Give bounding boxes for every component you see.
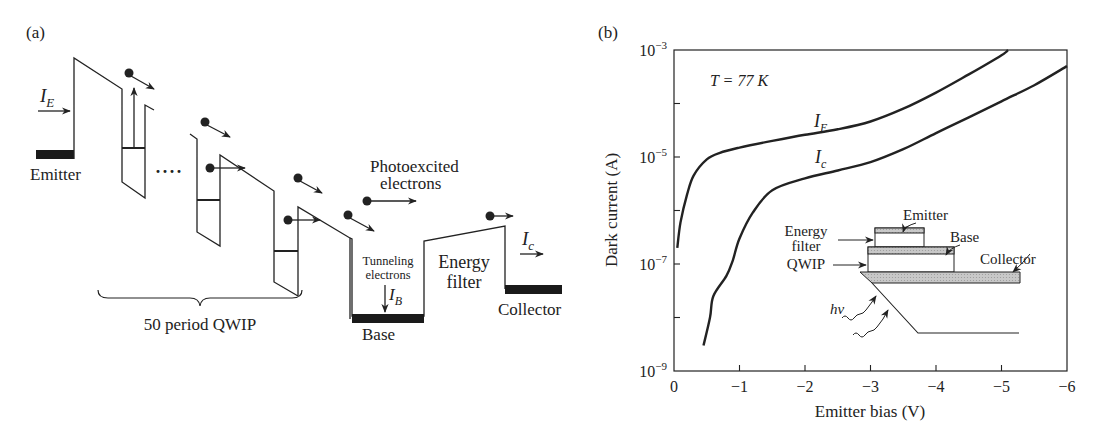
tunneling-label-line2: electrons (365, 268, 410, 282)
conduction-band-period-2 (190, 134, 298, 296)
panel-b-chart: (b) 10−3 10−5 10−7 10−9 0 −1 − (598, 23, 1076, 421)
electron-motion-arrow-icon (350, 218, 374, 231)
y-axis-label: Dark current (A) (602, 153, 621, 267)
emitter-label: Emitter (30, 165, 81, 184)
tunneling-label-line1: Tunneling (363, 254, 415, 268)
x-tick: −1 (731, 378, 748, 395)
x-tick: −4 (927, 378, 944, 395)
x-tick: −5 (993, 378, 1010, 395)
device-inset: Emitter Base Collector Energy filter QWI… (784, 207, 1035, 337)
electron-motion-arrow-icon (207, 125, 230, 137)
collector-contact-bar (505, 285, 562, 294)
electron-dot (206, 164, 215, 173)
inset-collector-label: Collector (980, 251, 1036, 267)
electron-dot (486, 212, 495, 221)
base-contact-bar (352, 314, 424, 323)
collector-label: Collector (498, 300, 562, 319)
y-axis-tick-labels: 10−3 10−5 10−7 10−9 (639, 39, 667, 380)
base-label: Base (362, 325, 395, 344)
x-axis-tick-labels: 0 −1 −2 −3 −4 −5 −6 (670, 378, 1076, 395)
photon-wave-icon (842, 296, 876, 320)
period-brace (98, 290, 302, 306)
photoexcited-label-line2: electrons (380, 174, 441, 193)
electron-motion-arrow-icon (300, 181, 322, 193)
y-tick-1e-7: 10−7 (639, 253, 667, 273)
energy-filter-label-line2: filter (447, 272, 482, 292)
conduction-band-period-1 (74, 58, 154, 198)
period-label: 50 period QWIP (144, 315, 256, 334)
electron-motion-arrow-icon (131, 76, 154, 89)
photon-label: hν (830, 301, 845, 317)
base-layer (868, 247, 954, 254)
energy-filter-label-line1: Energy (438, 252, 490, 272)
y-tick-1e-3: 10−3 (639, 39, 667, 59)
x-tick: 0 (670, 378, 678, 395)
inset-energy-filter-label-line1: Energy (784, 223, 828, 239)
collector-current-curve (704, 66, 1068, 345)
electron-dot (284, 216, 293, 225)
substrate-outline (872, 283, 1019, 333)
period-ellipsis: ···· (155, 162, 183, 182)
electron-dot (363, 197, 372, 206)
x-axis-ticks (740, 365, 1002, 371)
y-axis-ticks (674, 104, 680, 318)
collector-layer (860, 272, 1020, 283)
y-tick-1e-9: 10−9 (639, 360, 667, 380)
curve-label-ie: IE (813, 111, 828, 135)
conduction-band-period-3 (298, 207, 350, 319)
x-tick: −3 (862, 378, 879, 395)
inset-base-label: Base (950, 229, 980, 245)
base-current-symbol: IB (388, 285, 403, 308)
emitter-contact-bar (36, 150, 74, 159)
temperature-annotation: T = 77 K (710, 72, 769, 89)
y-tick-1e-5: 10−5 (639, 146, 667, 166)
x-tick: −2 (796, 378, 813, 395)
emitter-layer (875, 228, 924, 233)
curve-label-ic: Ic (814, 147, 827, 171)
inset-energy-filter-label-line2: filter (791, 238, 820, 254)
inset-qwip-label: QWIP (787, 256, 825, 272)
panel-a-band-diagram: (a) IE Emitter ···· 50 period QW (26, 23, 562, 344)
panel-b-label: (b) (598, 23, 618, 42)
inset-emitter-label: Emitter (903, 207, 948, 223)
emitter-current-symbol: IE (39, 85, 54, 110)
x-tick: −6 (1058, 378, 1075, 395)
panel-a-label: (a) (26, 23, 45, 42)
x-axis-label: Emitter bias (V) (815, 402, 925, 421)
collector-current-symbol: Ic (521, 228, 534, 253)
figure-canvas: (a) IE Emitter ···· 50 period QW (0, 0, 1112, 446)
